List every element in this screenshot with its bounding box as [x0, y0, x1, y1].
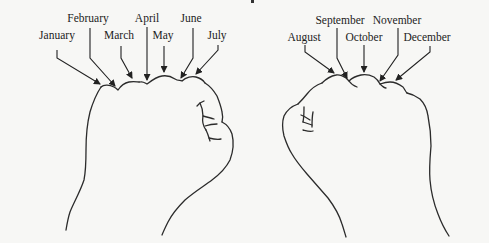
- label-february: February: [67, 13, 109, 25]
- label-march: March: [104, 30, 134, 42]
- label-june: June: [180, 13, 201, 25]
- right-fist: [283, 75, 450, 237]
- label-april: April: [135, 13, 159, 25]
- label-may: May: [152, 30, 173, 42]
- knuckle-months-diagram: January February March April May June Ju…: [0, 0, 489, 243]
- label-november: November: [373, 15, 422, 27]
- label-october: October: [345, 32, 382, 44]
- label-september: September: [315, 15, 364, 27]
- label-january: January: [39, 30, 75, 42]
- label-august: August: [287, 32, 320, 44]
- left-fist: [66, 76, 233, 235]
- label-july: July: [207, 30, 226, 42]
- label-december: December: [403, 32, 450, 44]
